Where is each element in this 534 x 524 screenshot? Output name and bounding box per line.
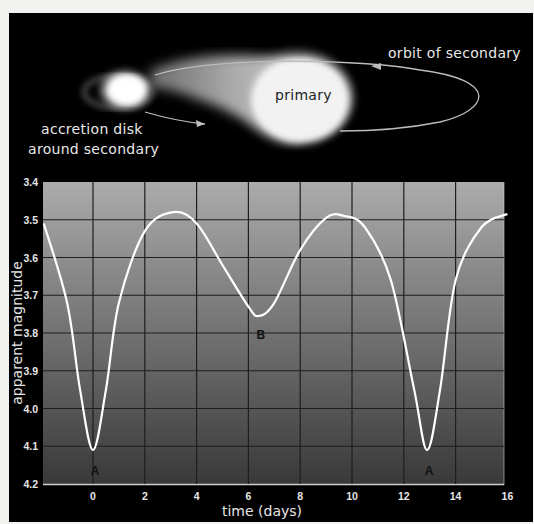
y-tick-label: 4.0 [23, 403, 38, 415]
y-tick-label: 3.4 [23, 176, 38, 188]
light-curve-chart: 3.43.53.63.73.83.94.04.14.2 024681012141… [0, 0, 534, 524]
minimum-label-b: B [256, 328, 265, 342]
x-tick-label: 8 [297, 490, 303, 502]
y-axis-ticks: 3.43.53.63.73.83.94.04.14.2 [23, 176, 38, 490]
y-tick-label: 4.2 [23, 478, 38, 490]
y-tick-label: 3.8 [23, 327, 38, 339]
y-tick-label: 3.5 [23, 214, 38, 226]
y-tick-label: 3.9 [23, 365, 38, 377]
x-axis-title: time (days) [222, 503, 302, 519]
y-tick-label: 3.7 [23, 289, 38, 301]
y-axis-title: apparent magnitude [9, 261, 25, 405]
x-tick-label: 0 [90, 490, 96, 502]
x-tick-label: 4 [194, 490, 200, 502]
x-tick-label: 14 [450, 490, 462, 502]
x-tick-label: 16 [502, 490, 514, 502]
y-tick-label: 4.1 [23, 440, 38, 452]
x-axis-ticks: 0246810121416 [90, 490, 513, 502]
x-tick-label: 6 [245, 490, 251, 502]
x-tick-label: 12 [398, 490, 410, 502]
minimum-label-a: A [91, 464, 100, 478]
y-tick-label: 3.6 [23, 252, 38, 264]
x-tick-label: 2 [142, 490, 148, 502]
x-tick-label: 10 [346, 490, 358, 502]
minimum-label-a: A [425, 464, 434, 478]
